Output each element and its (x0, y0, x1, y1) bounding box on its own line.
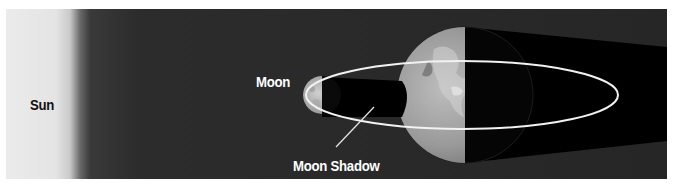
moon (303, 76, 341, 114)
sun-label: Sun (30, 96, 54, 113)
diagram-frame: Sun Moon Moon Shadow (6, 9, 667, 179)
earth (397, 27, 533, 163)
moon-shadow-label: Moon Shadow (293, 157, 380, 174)
diagram-canvas (6, 9, 667, 179)
moon-label: Moon (256, 73, 290, 90)
